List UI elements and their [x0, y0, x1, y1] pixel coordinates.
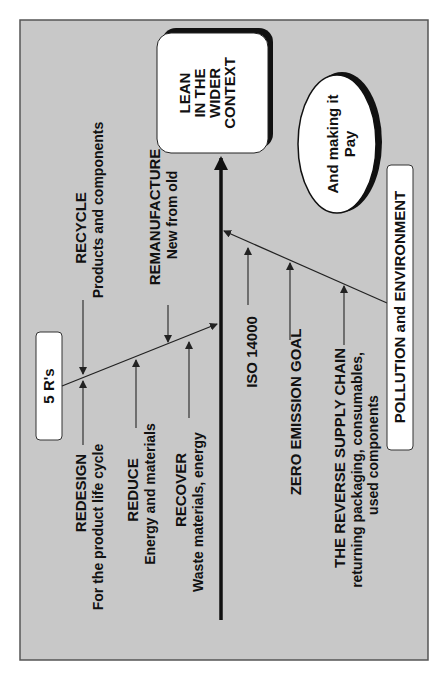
pollution-label: POLLUTION and ENVIRONMENT — [391, 191, 408, 424]
making-it-pay-ellipse: And making it Pay — [298, 72, 382, 213]
five-rs-box: 5 R's — [36, 332, 62, 440]
recover-title: RECOVER — [172, 453, 189, 527]
recycle-title: RECYCLE — [72, 192, 89, 264]
ellipse-line-1: And making it — [324, 94, 341, 193]
remanufacture-title: REMANUFACTURE — [146, 149, 163, 286]
lean-box: LEAN IN THE WIDER CONTEXT — [157, 28, 273, 153]
remanufacture-subtitle: New from old — [164, 171, 180, 260]
recycle-subtitle: Products and components — [90, 122, 106, 299]
five-rs-label: 5 R's — [40, 368, 57, 403]
lean-box-line-4: CONTEXT — [221, 57, 238, 129]
reduce-title: REDUCE — [124, 458, 141, 521]
reverse-supply-chain-subtitle-1: returning packaging, consumables, — [349, 352, 365, 588]
iso14000-label: ISO 14000 — [243, 316, 260, 388]
redesign-subtitle: For the product life cycle — [90, 444, 106, 611]
reduce-subtitle: Energy and materials — [142, 423, 158, 565]
recover-subtitle: Waste materials, energy — [190, 432, 206, 592]
zero-emission-label: ZERO EMISSION GOAL — [287, 329, 304, 496]
pollution-box: POLLUTION and ENVIRONMENT — [387, 165, 413, 450]
ellipse-line-2: Pay — [341, 130, 358, 157]
redesign-title: REDESIGN — [72, 454, 89, 532]
reverse-supply-chain-title: THE REVERSE SUPPLY CHAIN — [331, 348, 348, 568]
fishbone-diagram: LEAN IN THE WIDER CONTEXT And making it … — [0, 0, 447, 677]
reverse-supply-chain-subtitle-2: used components — [365, 395, 381, 515]
